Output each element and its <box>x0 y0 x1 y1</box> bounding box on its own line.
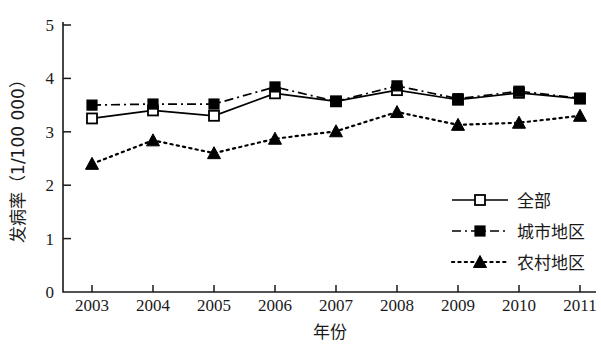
data-point <box>574 109 587 121</box>
x-tick-label: 2003 <box>75 296 109 315</box>
data-point <box>331 96 341 106</box>
legend-label: 农村地区 <box>517 253 585 273</box>
data-point <box>392 81 402 91</box>
data-point <box>209 99 219 109</box>
x-tick-label: 2010 <box>502 296 536 315</box>
legend-marker <box>475 195 485 205</box>
data-point <box>514 86 524 96</box>
series-line <box>92 112 580 164</box>
series-3-markers <box>86 106 587 170</box>
legend-item-1[interactable]: 全部 <box>452 191 551 211</box>
data-point <box>209 111 219 121</box>
series-3 <box>92 112 580 164</box>
chart-canvas: 012345 200320042005200620072008200920102… <box>0 0 601 346</box>
y-tick-label: 3 <box>46 123 55 142</box>
y-axis-ticks <box>63 25 71 239</box>
y-tick-label: 0 <box>46 283 55 302</box>
x-tick-label: 2006 <box>258 296 292 315</box>
y-axis-title: 发病率（1/100 000） <box>8 71 28 243</box>
chart-axes <box>63 22 596 292</box>
data-point <box>147 134 160 146</box>
legend-marker <box>475 226 485 236</box>
data-point <box>87 100 97 110</box>
data-point <box>86 157 99 169</box>
data-point <box>391 106 404 118</box>
y-tick-label: 1 <box>46 230 55 249</box>
x-tick-label: 2007 <box>319 296 354 315</box>
incidence-rate-line-chart: 012345 200320042005200620072008200920102… <box>0 0 601 346</box>
chart-legend: 全部城市地区农村地区 <box>452 191 585 273</box>
y-tick-label: 4 <box>46 69 55 88</box>
legend-item-2[interactable]: 城市地区 <box>452 222 585 242</box>
legend-item-3[interactable]: 农村地区 <box>452 253 585 273</box>
x-tick-label: 2004 <box>136 296 171 315</box>
y-axis-tick-labels: 012345 <box>46 16 55 302</box>
legend-label: 全部 <box>517 191 551 211</box>
data-point <box>575 93 585 103</box>
legend-label: 城市地区 <box>517 222 585 242</box>
chart-series-layer <box>86 81 587 169</box>
x-tick-label: 2005 <box>197 296 231 315</box>
x-tick-label: 2008 <box>380 296 414 315</box>
y-tick-label: 5 <box>46 16 55 35</box>
data-point <box>148 99 158 109</box>
x-axis-title: 年份 <box>313 322 347 342</box>
x-axis-ticks <box>92 285 580 292</box>
data-point <box>87 113 97 123</box>
x-tick-label: 2011 <box>563 296 596 315</box>
y-tick-label: 2 <box>46 176 55 195</box>
data-point <box>453 94 463 104</box>
x-tick-label: 2009 <box>441 296 475 315</box>
x-axis-tick-labels: 200320042005200620072008200920102011 <box>75 296 597 315</box>
data-point <box>270 82 280 92</box>
